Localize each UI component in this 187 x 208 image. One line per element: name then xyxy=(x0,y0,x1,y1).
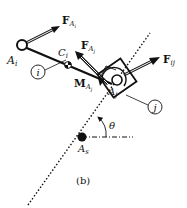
label-c-i: Ci xyxy=(58,47,68,60)
label-theta: θ xyxy=(109,120,115,131)
leader-line-j xyxy=(126,95,148,105)
label-a-i: Ai xyxy=(6,54,18,68)
label-f-aj: FAj xyxy=(81,39,96,55)
force-arrow-f-ai xyxy=(26,26,60,43)
joint-a-j xyxy=(112,75,122,85)
ground-pivot-a-s xyxy=(78,133,87,142)
label-a-s: As xyxy=(77,143,89,156)
theta-arc xyxy=(98,117,106,137)
leader-line-i xyxy=(45,60,66,70)
label-m-aj: MAj xyxy=(74,77,93,93)
body-label-i: i xyxy=(36,67,39,78)
center-of-mass-c-i xyxy=(65,62,72,69)
label-f-ai: FAi xyxy=(62,14,77,29)
mechanism-diagram: i j Ai Ci Aj As FAi FAj Fij MAj θ (b) xyxy=(0,0,187,208)
joint-a-i xyxy=(17,40,27,50)
label-f-ij: Fij xyxy=(163,53,176,67)
figure-caption: (b) xyxy=(76,175,90,186)
